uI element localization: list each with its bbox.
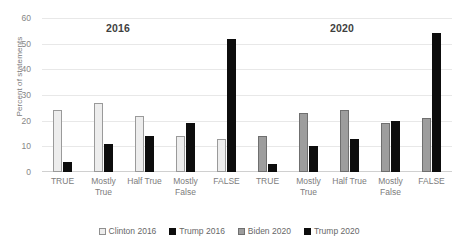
y-tick-20: 20 (5, 116, 31, 126)
legend-swatch-icon (304, 228, 311, 235)
bar-trump-2020-mostly-false (391, 121, 400, 172)
bar-biden-2020-false (422, 118, 431, 172)
bar-trump-2016-mostly-false (186, 123, 195, 172)
bar-trump-2020-mostly-true (309, 146, 318, 172)
gridline-60 (42, 18, 452, 19)
y-tick-50: 50 (5, 39, 31, 49)
legend-item-clinton-2016[interactable]: Clinton 2016 (99, 226, 157, 236)
bar-trump-2020-true (268, 164, 277, 172)
bar-clinton-2016-true (53, 110, 62, 172)
legend-swatch-icon (238, 228, 245, 235)
legend-swatch-icon (99, 228, 106, 235)
x-label-2020-false: FALSE (404, 176, 458, 187)
x-label-line2: True (281, 187, 337, 198)
chart-legend: Clinton 2016Trump 2016Biden 2020Trump 20… (0, 226, 458, 236)
gridline-50 (42, 44, 452, 45)
legend-item-trump-2016[interactable]: Trump 2016 (169, 226, 225, 236)
y-tick-0: 0 (5, 167, 31, 177)
legend-label: Biden 2020 (248, 226, 291, 236)
gridline-30 (42, 95, 452, 96)
bar-chart: Percent of statements 60 50 40 30 20 10 … (0, 0, 458, 240)
x-label-line1: FALSE (404, 176, 458, 187)
bar-clinton-2016-mostly-true (94, 103, 103, 172)
bar-trump-2016-half-true (145, 136, 154, 172)
legend-swatch-icon (169, 228, 176, 235)
bar-trump-2016-mostly-true (104, 144, 113, 172)
bar-biden-2020-half-true (340, 110, 349, 172)
era-label-2016: 2016 (106, 22, 130, 34)
bar-clinton-2016-false (217, 139, 226, 172)
legend-label: Trump 2016 (179, 226, 225, 236)
y-tick-30: 30 (5, 90, 31, 100)
bar-trump-2016-true (63, 162, 72, 172)
x-label-line2: False (158, 187, 214, 198)
bar-trump-2020-half-true (350, 139, 359, 172)
bar-biden-2020-mostly-true (299, 113, 308, 172)
era-label-2020: 2020 (330, 22, 354, 34)
gridline-40 (42, 69, 452, 70)
bar-clinton-2016-half-true (135, 116, 144, 172)
bar-biden-2020-mostly-false (381, 123, 390, 172)
x-label-line2: False (363, 187, 419, 198)
bar-trump-2020-false (432, 33, 441, 172)
bar-clinton-2016-mostly-false (176, 136, 185, 172)
y-tick-10: 10 (5, 141, 31, 151)
legend-item-biden-2020[interactable]: Biden 2020 (238, 226, 291, 236)
bar-biden-2020-true (258, 136, 267, 172)
bar-trump-2016-false (227, 39, 236, 172)
legend-label: Clinton 2016 (109, 226, 157, 236)
x-label-line2: True (76, 187, 132, 198)
y-tick-60: 60 (5, 13, 31, 23)
y-tick-40: 40 (5, 64, 31, 74)
plot-area: 60 50 40 30 20 10 0 (42, 18, 452, 172)
legend-label: Trump 2020 (314, 226, 360, 236)
legend-item-trump-2020[interactable]: Trump 2020 (304, 226, 360, 236)
